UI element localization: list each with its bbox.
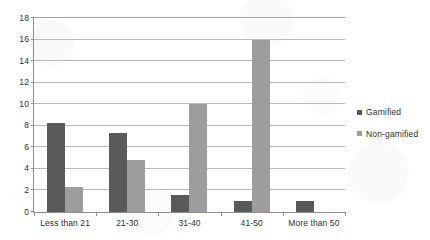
x-axis-category-label: 31-40 — [178, 219, 200, 228]
bar-non-gamified — [252, 40, 270, 212]
x-axis-category-label: 41-50 — [241, 219, 263, 228]
x-axis-category-label: More than 50 — [288, 219, 339, 228]
y-axis-tick-label: 8 — [24, 122, 29, 131]
bar-non-gamified — [65, 187, 83, 212]
chart-legend: Gamified Non-gamified — [357, 108, 418, 151]
bar-non-gamified — [127, 160, 145, 212]
y-axis-tick-label: 2 — [24, 186, 29, 195]
plot-area: 024681012141618Less than 2121-3031-4041-… — [33, 18, 345, 213]
legend-swatch-icon-non-gamified — [357, 131, 362, 136]
legend-label-non-gamified: Non-gamified — [366, 130, 418, 139]
y-axis-tick-label: 16 — [19, 35, 29, 44]
bar-gamified — [171, 195, 189, 212]
x-axis-tick-mark — [34, 212, 35, 216]
bar-group — [96, 18, 158, 212]
bar-gamified — [234, 201, 252, 212]
bar-gamified — [47, 123, 65, 212]
y-axis-tick-label: 14 — [19, 57, 29, 66]
y-axis-tick-label: 6 — [24, 143, 29, 152]
legend-label-gamified: Gamified — [366, 108, 401, 117]
legend-item-non-gamified: Non-gamified — [357, 130, 418, 139]
x-axis-category-label: 21-30 — [116, 219, 138, 228]
bar-group — [158, 18, 220, 212]
x-axis-tick-mark — [283, 212, 284, 216]
legend-item-gamified: Gamified — [357, 108, 418, 117]
x-axis-tick-mark — [96, 212, 97, 216]
bar-group — [221, 18, 283, 212]
bar-group — [34, 18, 96, 212]
bar-group — [283, 18, 345, 212]
x-axis-category-label: Less than 21 — [40, 219, 90, 228]
x-axis-tick-mark — [158, 212, 159, 216]
x-axis-tick-mark — [221, 212, 222, 216]
bar-non-gamified — [189, 104, 207, 212]
bar-gamified — [109, 133, 127, 212]
y-axis-tick-label: 0 — [24, 208, 29, 217]
legend-swatch-icon-gamified — [357, 110, 362, 115]
y-axis-tick-label: 10 — [19, 100, 29, 109]
x-axis-tick-mark — [345, 212, 346, 216]
bar-chart-figure: 024681012141618Less than 2121-3031-4041-… — [0, 0, 430, 240]
y-axis-tick-label: 4 — [24, 165, 29, 174]
y-axis-tick-label: 12 — [19, 78, 29, 87]
bar-gamified — [296, 201, 314, 212]
y-axis-tick-label: 18 — [19, 14, 29, 23]
